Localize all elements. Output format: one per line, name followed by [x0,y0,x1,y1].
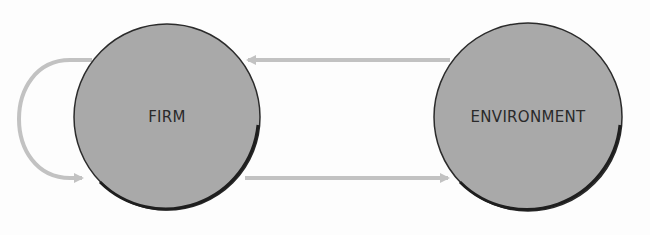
environment-label: ENVIRONMENT [471,108,586,126]
diagram-canvas: FIRM ENVIRONMENT [0,0,650,235]
firm-label: FIRM [148,108,186,126]
